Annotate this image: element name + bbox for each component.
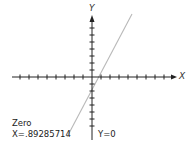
x-readout: X=.89285714 xyxy=(12,129,71,139)
x-axis-label: X xyxy=(179,71,185,81)
x-axis-arrow-icon xyxy=(171,75,177,80)
x-axis xyxy=(12,75,177,80)
graph-screen: Y X Zero X=.89285714 Y=0 xyxy=(0,0,193,149)
plot-line xyxy=(67,14,132,137)
zero-mode-label: Zero xyxy=(12,118,32,128)
y-axis-label: Y xyxy=(89,3,95,13)
y-axis-arrow-icon xyxy=(90,15,95,22)
y-readout: Y=0 xyxy=(98,129,116,139)
